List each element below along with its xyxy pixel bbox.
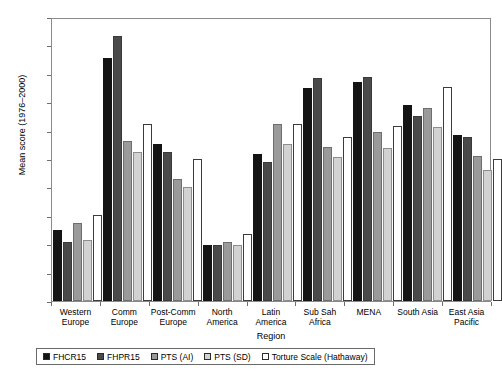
bar <box>123 141 132 301</box>
chart-legend: FHCR15FHPR15PTS (AI)PTS (SD)Torture Scal… <box>36 348 375 365</box>
bar <box>83 240 92 301</box>
bar <box>483 170 492 301</box>
legend-item: FHCR15 <box>43 352 86 362</box>
x-axis-label-line: America <box>198 317 247 327</box>
bar-group <box>102 19 152 301</box>
x-axis-label: East AsiaPacific <box>442 307 491 327</box>
x-axis-label-line: Pacific <box>442 317 491 327</box>
x-axis-label-line: Europe <box>149 317 198 327</box>
bar <box>113 36 122 301</box>
x-axis-label-line: Europe <box>51 317 100 327</box>
bar-group <box>202 19 252 301</box>
x-axis-label-line: Africa <box>295 317 344 327</box>
x-tick-mark <box>491 302 492 306</box>
x-tick-mark <box>295 302 296 306</box>
x-axis-labels: WesternEuropeCommEuropePost-CommEuropeNo… <box>51 307 491 327</box>
legend-swatch <box>97 353 104 360</box>
bar <box>133 152 142 301</box>
bar <box>243 234 252 301</box>
x-axis-label: CommEurope <box>100 307 149 327</box>
x-axis-label: MENA <box>344 307 393 327</box>
bar <box>413 116 422 301</box>
bar <box>253 154 262 301</box>
bar-group <box>52 19 102 301</box>
legend-swatch <box>43 353 50 360</box>
x-tick-mark <box>344 302 345 306</box>
bar <box>183 187 192 301</box>
x-axis-label: Post-CommEurope <box>149 307 198 327</box>
legend-item: PTS (SD) <box>204 352 250 362</box>
x-axis-label: Latin America <box>247 307 296 327</box>
bar-group <box>302 19 352 301</box>
x-tick-mark <box>100 302 101 306</box>
bar <box>373 132 382 301</box>
x-tick-mark <box>149 302 150 306</box>
bar <box>453 135 462 301</box>
bar <box>493 159 502 301</box>
x-tick-mark <box>393 302 394 306</box>
bar <box>443 87 452 301</box>
x-axis-title: Region <box>51 331 491 341</box>
bar <box>103 58 112 301</box>
x-axis-label-line: Latin America <box>247 307 296 327</box>
x-axis-label-line: East Asia <box>442 307 491 317</box>
bar <box>323 147 332 301</box>
x-axis-label-line: Sub Sah <box>295 307 344 317</box>
legend-item: FHPR15 <box>97 352 140 362</box>
bar-group <box>152 19 202 301</box>
bar <box>463 137 472 301</box>
bar <box>283 144 292 301</box>
bar <box>143 124 152 301</box>
legend-item: Torture Scale (Hathaway) <box>262 352 368 362</box>
legend-label: Torture Scale (Hathaway) <box>272 352 368 362</box>
x-axis-label: Sub SahAfrica <box>295 307 344 327</box>
y-axis-title: Mean score (1976–2000) <box>17 55 27 195</box>
bar-group <box>402 19 452 301</box>
bar <box>353 82 362 301</box>
bar <box>233 245 242 301</box>
bar <box>93 215 102 301</box>
legend-label: FHCR15 <box>53 352 86 362</box>
bar <box>293 124 302 301</box>
x-axis-label-line: North <box>198 307 247 317</box>
bar <box>473 156 482 301</box>
bar <box>53 230 62 301</box>
x-axis-label-line: Europe <box>100 317 149 327</box>
legend-item: PTS (AI) <box>151 352 194 362</box>
bar <box>313 78 322 301</box>
bar <box>73 223 82 301</box>
bar-groups <box>52 19 490 301</box>
x-axis-label: NorthAmerica <box>198 307 247 327</box>
x-axis-label-line: Comm <box>100 307 149 317</box>
bar <box>63 242 72 301</box>
x-tick-mark <box>51 302 52 306</box>
bar <box>393 126 402 301</box>
legend-swatch <box>262 353 269 360</box>
x-axis-label: WesternEurope <box>51 307 100 327</box>
bar <box>433 127 442 301</box>
bar-group <box>252 19 302 301</box>
bar <box>403 105 412 301</box>
x-axis-label-line: MENA <box>344 307 393 317</box>
bar <box>163 152 172 301</box>
bar <box>173 179 182 301</box>
bar-group <box>352 19 402 301</box>
bar <box>423 108 432 301</box>
x-tick-mark <box>442 302 443 306</box>
legend-swatch <box>151 353 158 360</box>
x-axis-label-line: South Asia <box>393 307 442 317</box>
bar <box>263 162 272 301</box>
plot-area <box>51 18 491 302</box>
bar <box>213 245 222 301</box>
x-tick-mark <box>247 302 248 306</box>
legend-label: FHPR15 <box>107 352 140 362</box>
x-axis-label-line: Post-Comm <box>149 307 198 317</box>
bar <box>193 159 202 301</box>
bar <box>203 245 212 301</box>
bar <box>153 144 162 301</box>
bar <box>273 124 282 301</box>
bar <box>303 88 312 301</box>
x-axis-label-line: Western <box>51 307 100 317</box>
bar <box>383 148 392 301</box>
